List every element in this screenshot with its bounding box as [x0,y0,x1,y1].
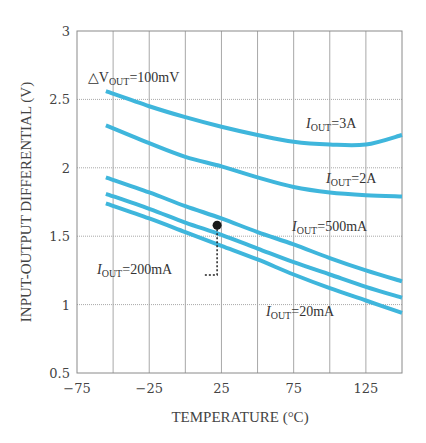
x-axis-label: TEMPERATURE (°C) [171,409,308,426]
y-tick-label: 3 [62,24,70,39]
x-tick-label: −25 [136,381,163,396]
dropout-voltage-chart: 0.511.522.53 −75−252575125 TEMPERATURE (… [0,0,426,443]
x-tick-label: 75 [285,381,302,396]
label-iout-500ma: IOUT=500mA [291,219,368,236]
x-tick-label: 125 [353,381,378,396]
condition-label: △VOUT=100mV [88,70,179,87]
label-iout-20ma: IOUT=20mA [265,304,335,321]
x-axis-ticks: −75−252575125 [63,381,378,396]
curve-iout-200ma [106,194,402,298]
y-tick-label: 2 [62,161,70,176]
label-iout-2a: IOUT=2A [325,171,377,188]
y-tick-label: 1 [62,298,70,313]
x-tick-label: 25 [213,381,230,396]
x-tick-label: −75 [63,381,90,396]
y-axis-label: INPUT-OUTPUT DIFFERENTIAL (V) [18,82,35,322]
curves [106,91,402,313]
y-axis-ticks: 0.511.522.53 [49,24,70,381]
y-tick-label: 1.5 [49,229,70,244]
marker-dot [213,221,222,230]
y-tick-label: 2.5 [49,92,70,107]
label-iout-200ma: IOUT=200mA [96,262,173,279]
label-iout-3a: IOUT=3A [305,116,357,133]
y-tick-label: 0.5 [49,366,70,381]
